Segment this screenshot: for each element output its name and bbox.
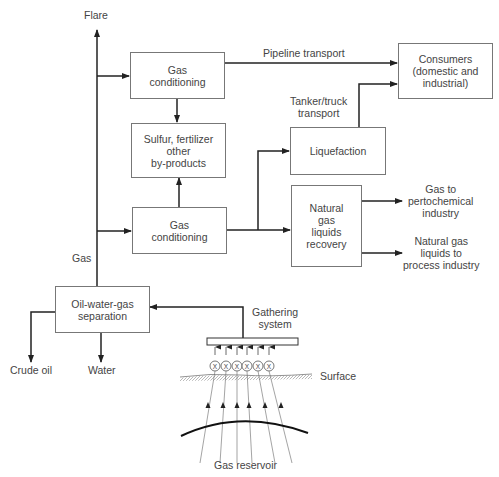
label-line: Natural gas <box>403 235 479 247</box>
gas-to-petrochemical-label: Gas to pertochemical industry <box>408 183 473 219</box>
box-label: Consumers <box>419 53 473 65</box>
gas-label: Gas <box>72 252 91 264</box>
surface-label: Surface <box>320 370 356 382</box>
label-line: Gas to <box>408 183 473 195</box>
label-line: pertochemical <box>408 195 473 207</box>
ngl-to-process-label: Natural gas liquids to process industry <box>403 235 479 271</box>
ground-surface <box>180 375 312 381</box>
label-line: Tanker/truck <box>290 95 347 107</box>
box-label: Gas <box>168 64 187 76</box>
box-label: other <box>167 145 191 157</box>
svg-text:X: X <box>213 363 218 370</box>
svg-text:X: X <box>256 363 261 370</box>
box-label: industrial) <box>423 77 469 89</box>
box-label: separation <box>78 310 127 322</box>
water-label: Water <box>88 364 116 376</box>
liquefaction-box: Liquefaction <box>290 127 386 175</box>
box-label: Liquefaction <box>310 145 367 157</box>
label-line: transport <box>290 107 347 119</box>
box-label: Oil-water-gas <box>71 298 133 310</box>
box-label: liquids <box>312 226 342 238</box>
svg-text:X: X <box>245 363 250 370</box>
box-label: Gas <box>170 219 189 231</box>
consumers-box: Consumers (domestic and industrial) <box>398 43 493 99</box>
box-label: Natural <box>310 202 344 214</box>
box-label: recovery <box>306 238 346 250</box>
sulfur-byproducts-box: Sulfur, fertilizer other by-products <box>131 123 226 178</box>
label-line: industry <box>408 207 473 219</box>
gathering-platform <box>207 338 298 345</box>
pipeline-transport-label: Pipeline transport <box>263 47 345 59</box>
tanker-truck-transport-label: Tanker/truck transport <box>290 95 347 119</box>
svg-text:X: X <box>235 363 240 370</box>
label-line: process industry <box>403 259 479 271</box>
gas-conditioning-1-box: Gas conditioning <box>130 52 225 99</box>
ngl-recovery-box: Natural gas liquids recovery <box>291 185 362 267</box>
label-line: Gathering <box>252 306 298 318</box>
gas-conditioning-2-box: Gas conditioning <box>132 207 227 254</box>
box-label: conditioning <box>151 231 207 243</box>
flare-label: Flare <box>84 9 108 21</box>
crude-oil-label: Crude oil <box>10 364 52 376</box>
oil-water-gas-separation-box: Oil-water-gas separation <box>55 286 150 333</box>
label-line: liquids to <box>403 247 479 259</box>
box-label: (domestic and <box>413 65 479 77</box>
box-label: by-products <box>151 157 206 169</box>
reservoir-arc <box>181 421 308 436</box>
svg-text:X: X <box>224 363 229 370</box>
gas-reservoir-label: Gas reservoir <box>214 459 277 471</box>
box-label: Sulfur, fertilizer <box>144 133 213 145</box>
box-label: conditioning <box>149 76 205 88</box>
svg-text:X: X <box>267 363 272 370</box>
label-line: system <box>252 318 298 330</box>
box-label: gas <box>318 214 335 226</box>
gathering-system-label: Gathering system <box>252 306 298 330</box>
